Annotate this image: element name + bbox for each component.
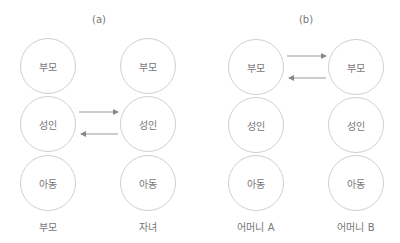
panel-b-left-child-node: 아동 xyxy=(228,155,284,211)
panel-a-right-parent-node: 부모 xyxy=(120,38,176,94)
panel-a-left-adult-node: 성인 xyxy=(20,96,76,152)
panel-a-left-parent-node: 부모 xyxy=(20,38,76,94)
panel-a-label: (a) xyxy=(79,14,119,25)
panel-b-right-parent-node: 부모 xyxy=(328,39,384,95)
panel-b-left-parent-node: 부모 xyxy=(228,39,284,95)
panel-a-left-child-node: 아동 xyxy=(20,155,76,211)
panel-b-right-caption: 어머니 B xyxy=(316,219,396,234)
panel-b-right-adult-node: 성인 xyxy=(328,97,384,153)
panel-a-left-caption: 부모 xyxy=(8,219,88,234)
panel-a-right-child-node: 아동 xyxy=(120,155,176,211)
panel-b-left-adult-node: 성인 xyxy=(228,97,284,153)
panel-b-left-caption: 어머니 A xyxy=(216,219,296,234)
panel-b-right-child-node: 아동 xyxy=(328,155,384,211)
panel-a-right-adult-node: 성인 xyxy=(120,96,176,152)
panel-b-label: (b) xyxy=(286,14,326,25)
panel-a-right-caption: 자녀 xyxy=(108,219,188,234)
